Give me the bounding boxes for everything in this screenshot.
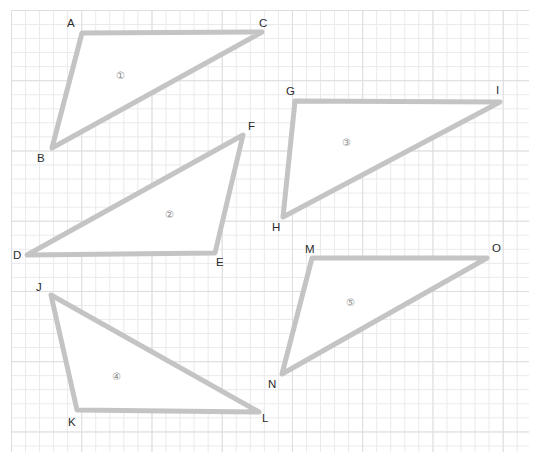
vertex-label-j: J	[36, 282, 42, 294]
vertex-label-c: C	[259, 18, 267, 30]
shape-number-4: ④	[112, 372, 121, 382]
shape-number-1: ①	[116, 71, 125, 81]
triangle-5-outline[interactable]	[282, 258, 487, 374]
vertex-label-i: I	[496, 85, 499, 97]
worksheet-canvas: A C B ① F E D ② G I H ③ J L K ④ M O N ⑤	[0, 0, 539, 461]
vertex-label-g: G	[286, 86, 295, 98]
shape-number-3: ③	[342, 138, 351, 148]
shape-number-2: ②	[165, 210, 174, 220]
triangles-layer	[0, 0, 539, 461]
triangle-3-outline[interactable]	[283, 101, 500, 217]
vertex-label-a: A	[67, 18, 75, 30]
triangle-1-outline[interactable]	[52, 32, 262, 148]
shape-number-5: ⑤	[346, 298, 355, 308]
vertex-label-l: L	[262, 413, 268, 425]
vertex-label-k: K	[68, 417, 76, 429]
vertex-label-h: H	[272, 222, 280, 234]
vertex-label-n: N	[268, 379, 276, 391]
vertex-label-f: F	[248, 121, 255, 133]
vertex-label-d: D	[13, 250, 21, 262]
vertex-label-e: E	[216, 257, 224, 269]
vertex-label-m: M	[305, 244, 315, 256]
triangle-2-outline[interactable]	[27, 135, 243, 255]
triangle-4-outline[interactable]	[51, 295, 259, 412]
vertex-label-b: B	[37, 153, 45, 165]
vertex-label-o: O	[492, 243, 501, 255]
